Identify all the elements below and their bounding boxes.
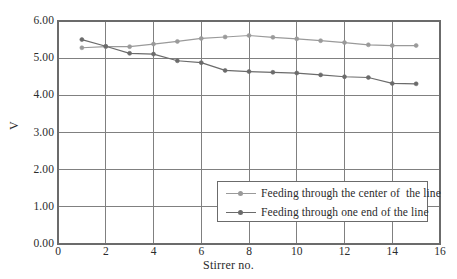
data-point-marker: [152, 42, 156, 46]
x-axis-tick-label: 14: [377, 246, 407, 258]
data-point-marker: [319, 39, 323, 43]
legend-item-0: Feeding through the center of the line: [218, 183, 429, 203]
legend-label-0: Feeding through the center of the line: [261, 187, 441, 199]
y-axis-tick-label: 1.00: [12, 201, 54, 213]
y-axis-title: V: [7, 121, 22, 130]
data-point-marker: [390, 81, 394, 85]
data-point-marker: [343, 41, 347, 45]
legend-label-1: Feeding through one end of the line: [261, 206, 429, 218]
legend-marker-icon-0: [226, 188, 256, 198]
data-point-marker: [271, 70, 275, 74]
legend-marker-icon-1: [226, 207, 256, 217]
data-point-marker: [104, 44, 108, 48]
chart-container: 0.001.002.003.004.005.006.00 02468101214…: [0, 0, 457, 279]
y-axis-tick-label: 2.00: [12, 164, 54, 176]
y-axis-tick-label: 4.00: [12, 89, 54, 101]
data-point-marker: [390, 44, 394, 48]
data-point-marker: [199, 61, 203, 65]
chart-plot-area: [0, 0, 457, 279]
y-axis-tick-labels: 0.001.002.003.004.005.006.00: [8, 0, 54, 279]
chart-legend: Feeding through the center of the line F…: [217, 181, 428, 222]
y-axis-tick-label: 6.00: [12, 15, 54, 27]
x-axis-tick-label: 16: [425, 246, 455, 258]
x-axis-tick-label: 12: [330, 246, 360, 258]
y-axis-tick-label: 5.00: [12, 52, 54, 64]
data-point-marker: [223, 68, 227, 72]
x-axis-tick-label: 2: [91, 246, 121, 258]
data-point-marker: [414, 82, 418, 86]
x-axis-tick-label: 8: [234, 246, 264, 258]
data-point-marker: [80, 38, 84, 42]
data-point-marker: [128, 45, 132, 49]
data-point-marker: [80, 46, 84, 50]
data-point-marker: [366, 75, 370, 79]
data-point-marker: [319, 73, 323, 77]
data-point-marker: [247, 70, 251, 74]
data-point-marker: [223, 35, 227, 39]
x-axis-tick-label: 6: [186, 246, 216, 258]
x-axis-tick-label: 4: [139, 246, 169, 258]
data-point-marker: [366, 43, 370, 47]
data-point-marker: [247, 33, 251, 37]
data-point-marker: [152, 52, 156, 56]
data-point-marker: [128, 51, 132, 55]
data-point-marker: [271, 35, 275, 39]
x-axis-tick-label: 10: [282, 246, 312, 258]
x-axis-title: Stirrer no.: [0, 258, 457, 273]
data-point-marker: [175, 39, 179, 43]
data-point-marker: [295, 71, 299, 75]
data-point-marker: [199, 36, 203, 40]
data-point-marker: [343, 75, 347, 79]
legend-item-1: Feeding through one end of the line: [218, 202, 429, 222]
data-point-marker: [175, 59, 179, 63]
data-point-marker: [295, 37, 299, 41]
x-axis-tick-label: 0: [43, 246, 73, 258]
data-point-marker: [414, 44, 418, 48]
